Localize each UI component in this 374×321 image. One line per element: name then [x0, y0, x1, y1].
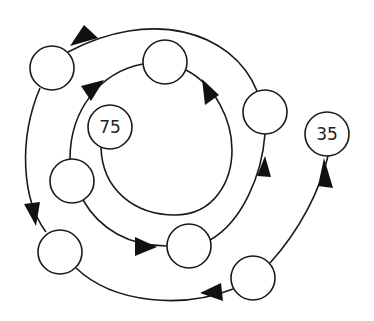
arrow-icon	[202, 79, 219, 105]
node-label: 35	[316, 124, 338, 144]
arrow-icon	[318, 158, 333, 188]
arrow-icon	[135, 237, 157, 256]
node-E	[50, 159, 94, 203]
node-C	[243, 90, 287, 134]
node-35: 35	[305, 112, 349, 156]
edge-E-to-G	[83, 200, 167, 246]
node-G	[167, 224, 211, 268]
edge-G-to-C	[210, 134, 265, 240]
node-A	[30, 46, 74, 90]
arrow-icon	[70, 25, 98, 46]
node-label: 75	[99, 117, 121, 137]
node-H	[231, 256, 275, 300]
arrow-icon	[81, 80, 104, 101]
spiral-sequence-diagram: 75 35	[0, 0, 374, 321]
node-75: 75	[88, 105, 132, 149]
node-F	[38, 230, 82, 274]
node-B	[143, 40, 187, 84]
edge-H-to-I	[270, 156, 328, 263]
arrow-icon	[24, 202, 40, 226]
